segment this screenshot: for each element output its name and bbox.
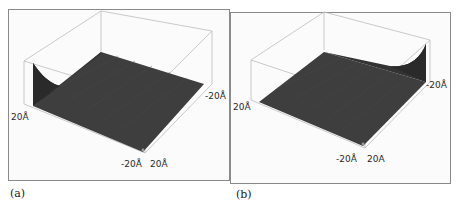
surface-plot-a xyxy=(0,0,230,211)
surface-plot-b xyxy=(230,0,461,211)
tick-label-a-right: -20Å xyxy=(205,92,226,101)
tick-label-a-bottom-2: 20Å xyxy=(150,160,168,169)
panel-a: 20Å -20Å -20Å 20Å (a) xyxy=(0,0,230,211)
caption-a: (a) xyxy=(10,187,25,200)
tick-label-a-bottom-1: -20Å xyxy=(121,160,142,169)
tick-label-b-bottom-2: 20A xyxy=(367,155,385,164)
tick-label-b-left: 20Å xyxy=(233,103,251,112)
tick-label-a-left: 20Å xyxy=(11,113,29,122)
caption-b: (b) xyxy=(236,188,252,201)
tick-label-b-right: -20Å xyxy=(426,81,447,90)
tick-label-b-bottom-1: -20Å xyxy=(336,155,357,164)
panel-b: 20Å -20Å -20Å 20A (b) xyxy=(230,0,461,211)
surface-floor-a xyxy=(33,52,204,152)
